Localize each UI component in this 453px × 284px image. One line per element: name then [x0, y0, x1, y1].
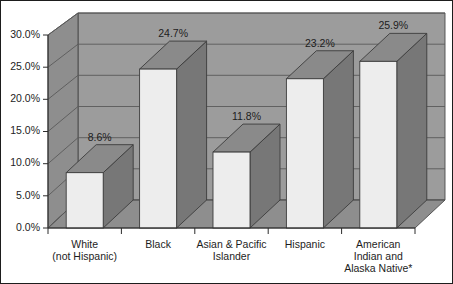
y-tick-label: 30.0% — [10, 28, 40, 40]
y-tick-label: 20.0% — [10, 92, 40, 104]
bar-value-label: 11.8% — [232, 110, 261, 122]
bar-value-label: 23.2% — [305, 37, 335, 49]
bar-side-face — [177, 41, 207, 228]
bar-chart-3d: 30.0% 25.0% 20.0% 15.0% 10.0% 5.0% 0.0% … — [0, 0, 453, 284]
y-axis-tick-labels: 30.0% 25.0% 20.0% 15.0% 10.0% 5.0% 0.0% — [10, 28, 40, 233]
y-tick-label: 25.0% — [10, 60, 40, 72]
bar-front-face — [140, 69, 177, 228]
chart-figure: 30.0% 25.0% 20.0% 15.0% 10.0% 5.0% 0.0% … — [0, 0, 453, 284]
x-category-label: Hispanic — [285, 238, 325, 250]
bar-value-label: 25.9% — [378, 19, 408, 31]
y-tick-label: 10.0% — [10, 156, 40, 168]
bar-front-face — [286, 79, 323, 228]
x-category-label: Alaska Native* — [344, 262, 412, 274]
y-tick-label: 0.0% — [16, 221, 40, 233]
bar-front-face — [213, 152, 250, 228]
bar-value-label: 8.6% — [88, 131, 112, 143]
x-category-label: (not Hispanic) — [52, 250, 117, 262]
y-tick-label: 5.0% — [16, 189, 40, 201]
x-category-label: Asian & Pacific — [196, 238, 266, 250]
bar-1 — [140, 41, 207, 228]
x-category-label: Indian and — [354, 250, 403, 262]
x-axis — [48, 228, 415, 234]
bar-side-face — [397, 33, 427, 228]
bar-front-face — [66, 173, 103, 228]
category-labels-group: White(not Hispanic)BlackAsian & PacificI… — [52, 238, 412, 274]
y-axis-ticks — [43, 35, 48, 228]
x-category-label: Black — [145, 238, 171, 250]
x-category-label: White — [71, 238, 98, 250]
bar-4 — [360, 33, 427, 228]
x-category-label: American — [356, 238, 401, 250]
y-tick-label: 15.0% — [10, 124, 40, 136]
bar-front-face — [360, 61, 397, 228]
bar-side-face — [323, 51, 353, 228]
bar-value-label: 24.7% — [158, 27, 188, 39]
x-category-label: Islander — [213, 250, 251, 262]
bar-3 — [286, 51, 353, 228]
